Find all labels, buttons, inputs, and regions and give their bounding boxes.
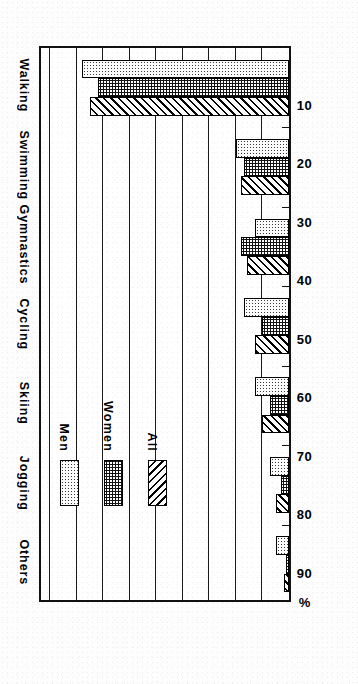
value-tick-60: 60 — [296, 390, 314, 405]
legend-swatch-all — [148, 460, 167, 506]
legend-label-women: Women — [101, 401, 115, 452]
gridline-20 — [235, 48, 236, 600]
bar-skiing-men — [255, 377, 289, 396]
bar-swimming-women — [244, 158, 289, 177]
legend-item-men: Men — [51, 414, 95, 506]
category-label-swimming: Swimming — [17, 125, 31, 204]
category-separator — [282, 286, 289, 287]
bar-others-all — [284, 574, 289, 593]
category-label-gymnastics: Gymnastics — [17, 205, 31, 284]
gridline-40 — [182, 48, 183, 600]
legend-item-women: Women — [95, 414, 139, 506]
legend-swatch-women — [104, 460, 123, 506]
plot-area — [39, 46, 291, 602]
gridline-80 — [76, 48, 77, 600]
bar-cycling-men — [244, 298, 289, 317]
bar-jogging-men — [270, 457, 289, 476]
category-label-cycling: Cycling — [17, 284, 31, 363]
rotated-figure-wrapper: 102030405060708090% WalkingSwimmingGymna… — [0, 0, 358, 684]
bar-jogging-all — [276, 494, 289, 513]
value-tick-20: 20 — [296, 156, 314, 171]
legend-label-all: All — [145, 432, 159, 452]
category-label-jogging: Jogging — [17, 443, 31, 522]
bar-walking-women — [98, 78, 289, 97]
bar-swimming-men — [236, 139, 289, 158]
bar-skiing-all — [262, 415, 289, 434]
category-separator — [282, 525, 289, 526]
category-separator — [282, 366, 289, 367]
bar-walking-men — [82, 60, 289, 79]
value-tick-90: 90 — [296, 565, 314, 580]
legend-item-all: All — [139, 414, 183, 506]
value-tick-80: 80 — [296, 507, 314, 522]
gridline-30 — [208, 48, 209, 600]
category-label-skiing: Skiing — [17, 364, 31, 443]
chart-legend: Men Women All — [51, 414, 183, 506]
bar-others-women — [286, 555, 289, 574]
bar-gymnastics-all — [247, 256, 289, 275]
bar-jogging-women — [281, 476, 289, 495]
category-separator — [282, 207, 289, 208]
value-tick-70: 70 — [296, 448, 314, 463]
grouped-bar-chart: 102030405060708090% WalkingSwimmingGymna… — [29, 28, 329, 656]
bar-gymnastics-men — [255, 219, 289, 238]
bar-gymnastics-women — [241, 237, 289, 256]
legend-swatch-men — [60, 460, 79, 506]
category-separator — [282, 127, 289, 128]
gridline-70 — [102, 48, 103, 600]
legend-label-men: Men — [57, 423, 71, 452]
gridline-50 — [155, 48, 156, 600]
category-label-others: Others — [17, 523, 31, 602]
bar-others-men — [276, 536, 289, 555]
category-label-walking: Walking — [17, 46, 31, 125]
gridline-90 — [49, 48, 50, 600]
bar-skiing-women — [270, 396, 289, 415]
page-canvas: 102030405060708090% WalkingSwimmingGymna… — [0, 0, 358, 684]
percent-axis-label: % — [299, 595, 311, 610]
value-tick-50: 50 — [296, 331, 314, 346]
bar-walking-all — [90, 97, 289, 116]
bar-cycling-women — [262, 317, 289, 336]
category-separator — [282, 445, 289, 446]
value-tick-40: 40 — [296, 273, 314, 288]
value-tick-10: 10 — [296, 97, 314, 112]
bar-swimming-all — [241, 176, 289, 195]
bar-cycling-all — [255, 335, 289, 354]
value-tick-30: 30 — [296, 214, 314, 229]
gridline-60 — [129, 48, 130, 600]
